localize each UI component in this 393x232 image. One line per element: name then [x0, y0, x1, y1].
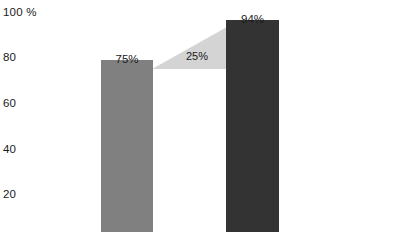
bar-chart: 100 % 80 60 40 20 75% 25% 94% — [0, 0, 393, 232]
y-axis-tick-label-20: 20 — [3, 189, 16, 201]
delta-value-label: 25% — [186, 51, 208, 62]
bar-1 — [101, 60, 153, 232]
bar-1-value-label: 75% — [101, 54, 153, 66]
y-axis-tick-label-60: 60 — [3, 98, 16, 110]
y-axis-tick-label-40: 40 — [3, 144, 16, 156]
delta-wedge — [152, 27, 227, 69]
bar-2-value-label: 94% — [226, 14, 279, 26]
bar-2 — [226, 20, 279, 232]
y-axis-tick-label-80: 80 — [3, 52, 16, 64]
y-axis-tick-label-100: 100 % — [3, 7, 37, 19]
